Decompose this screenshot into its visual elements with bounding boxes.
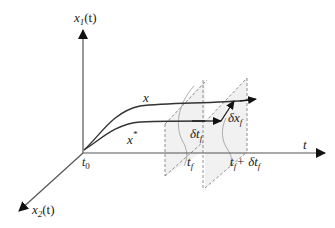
shifted-terminal-plane — [205, 78, 247, 188]
optimal-control-diagram: x1(t) t x2(t) t0 x x* δtf δxf tf tf+ δtf — [0, 0, 335, 228]
x1-axis-label: x1(t) — [73, 10, 97, 27]
varied-trajectory-label: x — [142, 90, 149, 105]
x2-axis-label: x2(t) — [31, 202, 55, 219]
t-axis-label: t — [303, 137, 307, 152]
optimal-trajectory-label: x* — [126, 129, 138, 147]
origin-label: t0 — [82, 155, 90, 171]
